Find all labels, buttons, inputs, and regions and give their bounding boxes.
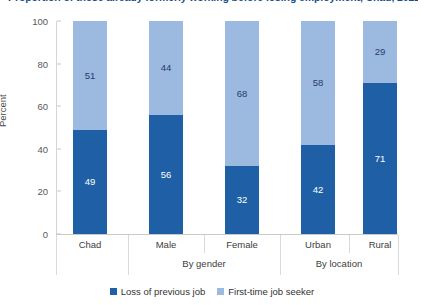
bar-segment-first-time-job-seeker[interactable]: 68: [225, 21, 259, 166]
bar-group: 5644: [149, 21, 183, 234]
category-label-female: Female: [202, 239, 282, 250]
bar-value-label: 42: [313, 185, 324, 195]
bar-value-label: 51: [85, 71, 96, 81]
legend-label: First-time job seeker: [228, 286, 314, 297]
bar-segment-loss-of-previous-job[interactable]: 32: [225, 166, 259, 234]
group-label-by-gender: By gender: [144, 258, 264, 269]
group-separator: [398, 235, 399, 275]
bar-group: 4951: [73, 21, 107, 234]
bar-value-label: 71: [375, 154, 386, 164]
bar-segment-loss-of-previous-job[interactable]: 71: [363, 83, 397, 234]
plot-area: 49515644326842587129: [56, 21, 398, 234]
bar-group: 3268: [225, 21, 259, 234]
bar-group: 4258: [301, 21, 335, 234]
group-separator: [128, 235, 129, 275]
bar-value-label: 44: [161, 63, 172, 73]
group-label-by-location: By location: [279, 258, 399, 269]
bar-value-label: 29: [375, 47, 386, 57]
bar-value-label: 32: [237, 195, 248, 205]
bar-value-label: 56: [161, 170, 172, 180]
bar-segment-first-time-job-seeker[interactable]: 29: [363, 21, 397, 83]
legend-label: Loss of previous job: [121, 286, 206, 297]
category-label-rural: Rural: [340, 239, 420, 250]
bar-value-label: 58: [313, 78, 324, 88]
bar-group: 7129: [363, 21, 397, 234]
legend-item-loss-of-previous-job[interactable]: Loss of previous job: [110, 286, 206, 297]
group-separator: [280, 235, 281, 275]
legend-swatch-icon: [217, 288, 224, 295]
category-label-chad: Chad: [50, 239, 130, 250]
y-axis-title: Percent: [0, 94, 8, 127]
legend-item-first-time-job-seeker[interactable]: First-time job seeker: [217, 286, 314, 297]
legend-swatch-icon: [110, 288, 117, 295]
x-axis-line: [56, 234, 398, 235]
bar-segment-loss-of-previous-job[interactable]: 56: [149, 115, 183, 234]
chart-legend: Loss of previous job First-time job seek…: [0, 286, 424, 297]
y-axis-tick-label: 60: [37, 101, 48, 112]
stacked-bar-chart: Proportion of those already formerly wor…: [0, 0, 424, 305]
category-label-male: Male: [126, 239, 206, 250]
y-axis-tick-label: 0: [43, 229, 48, 240]
bar-segment-first-time-job-seeker[interactable]: 58: [301, 21, 335, 145]
bar-value-label: 68: [237, 89, 248, 99]
bar-value-label: 49: [85, 177, 96, 187]
y-axis-tick-label: 100: [32, 16, 48, 27]
group-separator: [56, 235, 57, 275]
bar-segment-first-time-job-seeker[interactable]: 44: [149, 21, 183, 115]
bar-segment-loss-of-previous-job[interactable]: 42: [301, 145, 335, 234]
category-separator: [204, 235, 205, 253]
y-axis-tick-label: 20: [37, 186, 48, 197]
chart-title: Proportion of those already formerly wor…: [8, 0, 418, 3]
category-separator: [349, 235, 350, 253]
y-axis-tick-label: 80: [37, 58, 48, 69]
bar-segment-loss-of-previous-job[interactable]: 49: [73, 130, 107, 234]
bar-segment-first-time-job-seeker[interactable]: 51: [73, 21, 107, 130]
y-axis-tick-label: 40: [37, 143, 48, 154]
